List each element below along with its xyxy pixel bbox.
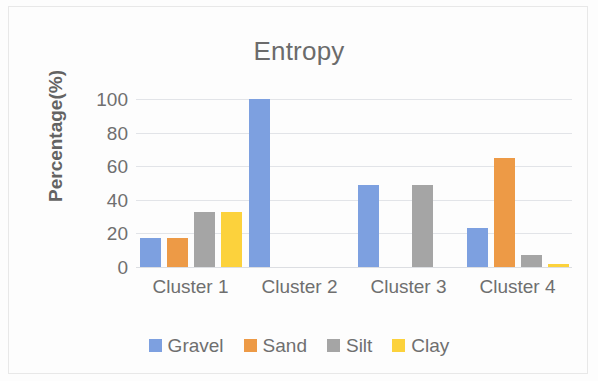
bar-group-2 [245,99,354,267]
legend-label-gravel: Gravel [168,336,224,355]
legend-swatch-clay-icon [392,339,405,352]
bar-gravel-cluster-4 [467,228,488,267]
bar-sand-cluster-1 [167,238,188,267]
y-tick-label-80: 80 [72,124,128,143]
x-tick-label-2: Cluster 2 [245,276,354,298]
bar-gravel-cluster-3 [358,185,379,267]
y-tick-label-20: 20 [72,224,128,243]
entropy-bar-chart: Entropy Percentage(%) 020406080100 Clust… [0,0,598,381]
legend-label-clay: Clay [411,336,449,355]
legend-label-silt: Silt [346,336,372,355]
legend-swatch-gravel-icon [149,339,162,352]
y-axis-title: Percentage(%) [45,56,67,216]
legend-item-clay[interactable]: Clay [392,336,449,355]
bar-silt-cluster-1 [194,212,215,267]
bar-gravel-cluster-1 [140,238,161,267]
bar-gravel-cluster-2 [249,99,270,267]
y-tick-label-0: 0 [72,258,128,277]
legend-label-sand: Sand [263,336,307,355]
bar-group-3 [354,99,463,267]
plot-area [136,99,572,267]
y-tick-label-100: 100 [72,90,128,109]
x-tick-label-3: Cluster 3 [354,276,463,298]
bar-group-4 [463,99,572,267]
chart-legend: GravelSandSiltClay [0,336,598,355]
legend-item-silt[interactable]: Silt [327,336,372,355]
y-tick-label-40: 40 [72,191,128,210]
bar-group-1 [136,99,245,267]
gridline-0 [136,267,572,268]
x-tick-label-4: Cluster 4 [463,276,572,298]
bar-clay-cluster-4 [548,264,569,267]
legend-swatch-silt-icon [327,339,340,352]
chart-title: Entropy [0,36,598,67]
legend-item-sand[interactable]: Sand [244,336,307,355]
legend-item-gravel[interactable]: Gravel [149,336,224,355]
legend-swatch-sand-icon [244,339,257,352]
bar-sand-cluster-4 [494,158,515,267]
y-tick-label-60: 60 [72,157,128,176]
bar-clay-cluster-1 [221,212,242,267]
bar-silt-cluster-4 [521,255,542,267]
x-axis-tick-labels: Cluster 1Cluster 2Cluster 3Cluster 4 [136,276,572,302]
y-axis-tick-labels: 020406080100 [66,99,128,267]
bar-silt-cluster-3 [412,185,433,267]
x-tick-label-1: Cluster 1 [136,276,245,298]
